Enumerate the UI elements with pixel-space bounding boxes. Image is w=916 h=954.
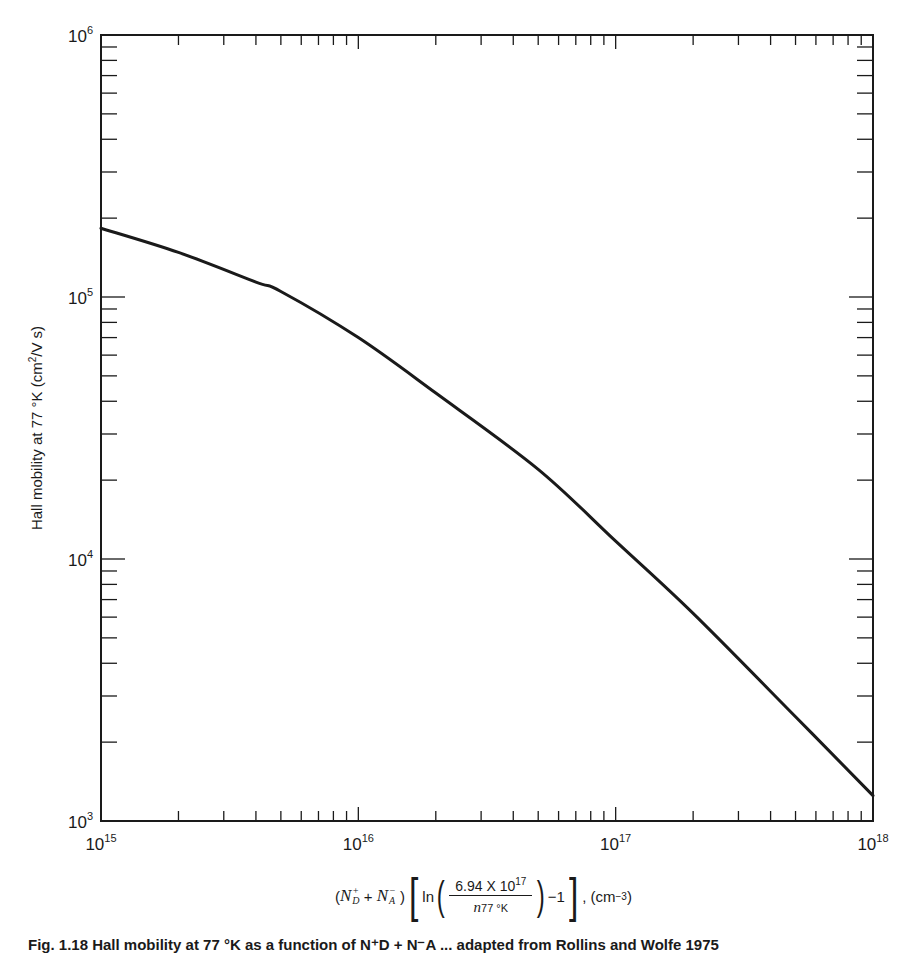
fraction-denominator: n77 °K [474,896,509,916]
y-tick-label: 104 [68,548,93,570]
fraction-numerator: 6.94 X 1017 [449,876,532,897]
y-axis-label: Hall mobility at 77 °K (cm2/V s) [27,326,45,530]
xlabel-ln: ln [422,888,434,905]
x-tick-label: 1017 [600,832,631,854]
xlabel-big-paren-close: ) [537,876,545,916]
plot-border [101,35,873,821]
x-axis-label: ( N +D + N −A ) [ ln ( 6.94 X 1017 n77 °… [335,868,632,924]
xlabel-paren-close: ) [396,888,405,905]
plot-frame [101,35,873,821]
xlabel-na: N [377,886,388,906]
figure-caption: Fig. 1.18 Hall mobility at 77 °K as a fu… [28,936,719,954]
y-tick-label: 106 [68,24,93,46]
xlabel-units-close: ) [627,888,632,905]
xlabel-nd: N [340,886,351,906]
xlabel-plus: + [360,888,377,905]
xlabel-big-paren-open: ( [437,876,445,916]
xlabel-nd-supsub: +D [352,886,359,906]
xlabel-units-exp: −3 [615,891,626,902]
y-tick-label: 105 [68,286,93,308]
xlabel-bracket-open: [ [409,872,418,920]
x-tick-label: 1018 [857,832,888,854]
x-tick-label: 1015 [85,832,116,854]
xlabel-fraction: 6.94 X 1017 n77 °K [449,876,532,917]
y-tick-label: 103 [68,810,93,832]
data-curve [101,228,873,795]
tick-labels: 1061051041031015101610171018 [68,24,889,854]
axis-ticks [101,35,873,821]
x-tick-label: 1016 [343,832,374,854]
xlabel-bracket-close: ] [569,872,578,920]
xlabel-minus-one: −1 [548,888,565,905]
xlabel-units: , (cm [582,888,615,905]
xlabel-na-supsub: −A [389,886,396,906]
